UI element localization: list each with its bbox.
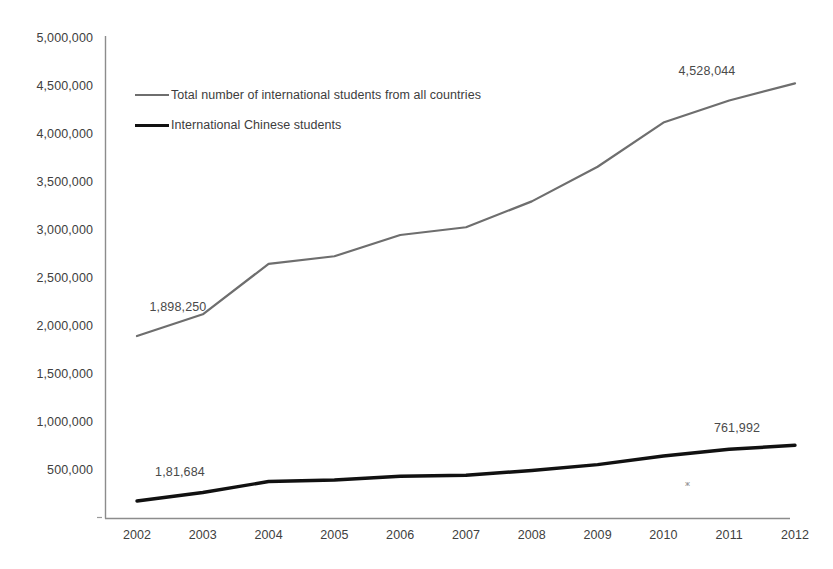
data-point-label: 1,81,684 [155, 465, 205, 479]
y-axis-tick-label: 1,000,000 [0, 415, 93, 429]
data-point-label: 1,898,250 [150, 300, 207, 314]
chart-legend: Total number of international students f… [135, 80, 535, 140]
line-chart-figure: 500,0001,000,0001,500,0002,000,0002,500,… [0, 0, 833, 569]
x-axis-tick-label: 2004 [254, 528, 282, 542]
x-axis-tick-label: 2006 [386, 528, 414, 542]
scan-artifact-mark: ⁎ [685, 478, 690, 488]
y-axis-tick-label: 4,000,000 [0, 127, 93, 141]
y-axis-tick-label: 1,500,000 [0, 367, 93, 381]
x-axis-tick-label: 2011 [716, 528, 743, 542]
series-line-international-chinese-students [137, 445, 795, 501]
y-axis-tick-label: 5,000,000 [0, 31, 93, 45]
y-axis-tick-label: 500,000 [0, 463, 93, 477]
y-axis-tick-label: 4,500,000 [0, 79, 93, 93]
x-axis-tick-label: 2012 [781, 528, 809, 542]
x-axis-tick-label: 2007 [452, 528, 480, 542]
y-axis-tick-label: 3,500,000 [0, 175, 93, 189]
legend-item-total: Total number of international students f… [135, 80, 535, 110]
data-point-label: 4,528,044 [679, 64, 736, 78]
legend-item-chinese: International Chinese students [135, 110, 535, 140]
legend-swatch-line-icon-chinese [135, 124, 169, 127]
x-axis-tick-label: 2003 [189, 528, 217, 542]
y-axis-tick-label: 2,000,000 [0, 319, 93, 333]
data-point-label: 761,992 [714, 421, 760, 435]
legend-swatch-line-icon-total [135, 94, 169, 96]
legend-label-chinese: International Chinese students [171, 118, 341, 132]
x-axis-tick-label: 2008 [518, 528, 546, 542]
y-axis-tick-label: 3,000,000 [0, 223, 93, 237]
x-axis-tick-label: 2009 [583, 528, 611, 542]
x-axis-tick-label: 2002 [123, 528, 151, 542]
legend-label-total: Total number of international students f… [171, 88, 481, 102]
y-axis-tick-label: 2,500,000 [0, 271, 93, 285]
x-axis-tick-label: 2005 [320, 528, 348, 542]
x-axis-tick-label: 2010 [649, 528, 677, 542]
